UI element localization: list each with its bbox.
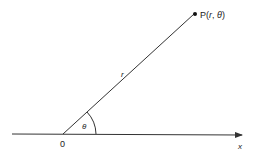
angle-label: θ (82, 122, 87, 131)
diagram-canvas: P(r, θ) r θ 0 x (0, 0, 256, 153)
x-axis (12, 134, 242, 135)
radius-line (63, 14, 194, 134)
origin-label: 0 (60, 139, 65, 149)
x-axis-label: x (237, 142, 243, 151)
polar-coordinates-diagram: P(r, θ) r θ 0 x (0, 0, 256, 153)
radius-label: r (121, 70, 124, 79)
angle-arc (87, 112, 96, 134)
point-p-dot (193, 12, 197, 16)
point-p-label: P(r, θ) (200, 10, 225, 20)
